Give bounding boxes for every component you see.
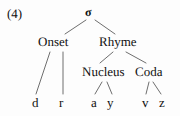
node-coda: Coda <box>135 65 162 78</box>
edge-nucleus-y <box>107 82 112 94</box>
syllable-tree-figure: (4) σ Onset Rhyme Nucleus Coda d r a y v… <box>0 0 180 116</box>
edge-sigma-onset <box>65 20 86 34</box>
edge-nucleus-a <box>95 82 102 94</box>
edge-coda-z <box>153 82 161 94</box>
leaf-segment-d: d <box>32 96 39 109</box>
leaf-segment-y: y <box>107 96 114 109</box>
node-sigma: σ <box>85 6 92 18</box>
edge-rhyme-nucleus <box>100 52 113 63</box>
node-onset: Onset <box>38 35 68 48</box>
node-rhyme: Rhyme <box>99 35 137 48</box>
leaf-segment-a: a <box>91 96 97 109</box>
edge-onset-d <box>36 52 50 94</box>
edge-coda-v <box>146 82 149 94</box>
leaf-segment-r: r <box>59 96 63 109</box>
edge-group <box>36 20 161 94</box>
edge-sigma-rhyme <box>95 20 115 34</box>
node-nucleus: Nucleus <box>82 65 125 78</box>
edge-rhyme-coda <box>126 52 146 63</box>
leaf-segment-z: z <box>159 96 165 109</box>
example-number-label: (4) <box>7 7 22 20</box>
leaf-segment-v: v <box>142 96 149 109</box>
